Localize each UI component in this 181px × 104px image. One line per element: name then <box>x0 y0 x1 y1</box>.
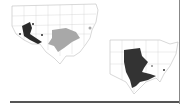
us-map-west <box>0 0 100 80</box>
dark-marker <box>41 34 43 36</box>
dark-marker <box>151 65 153 67</box>
right-divider <box>179 0 180 104</box>
bottom-divider <box>10 101 180 103</box>
dark-marker <box>163 69 165 71</box>
us-map-east <box>100 38 180 98</box>
dark-marker <box>19 33 21 35</box>
dark-marker <box>32 23 34 25</box>
light-marker <box>89 27 92 30</box>
